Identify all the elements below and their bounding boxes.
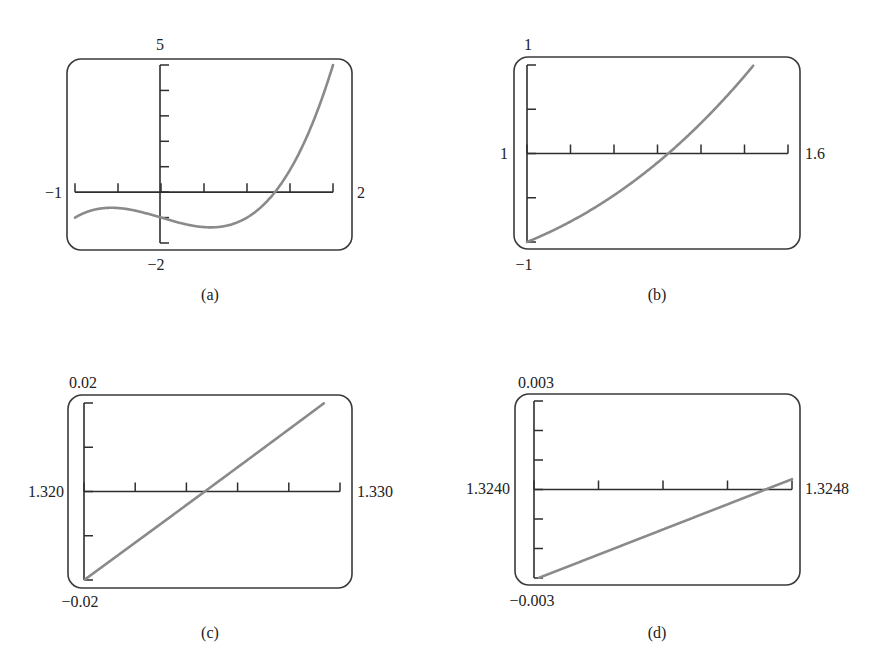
- xmax-label: 2: [357, 184, 365, 201]
- figure: 5 −2 −1 2 (a) 1 −1 1 1.6 (b) 0.02 −0.02 …: [0, 0, 887, 669]
- function-curve: [539, 479, 792, 578]
- function-curve: [75, 65, 333, 227]
- panel-caption: (d): [648, 624, 667, 642]
- ymin-label: −2: [147, 256, 164, 273]
- panel-b: 1 −1 1 1.6 (b): [500, 36, 825, 304]
- xmax-label: 1.3248: [805, 480, 849, 497]
- ticks: [75, 65, 333, 243]
- ymax-label: 5: [156, 36, 164, 53]
- panel-caption: (b): [648, 286, 667, 304]
- xmin-label: 1.320: [28, 483, 64, 500]
- ymax-label: 1: [524, 36, 532, 53]
- ymin-label: −0.02: [61, 593, 98, 610]
- xmin-label: −1: [45, 184, 62, 201]
- panel-a: 5 −2 −1 2 (a): [45, 36, 365, 304]
- ymax-label: 0.02: [69, 374, 97, 391]
- panel-caption: (c): [201, 624, 219, 642]
- xmax-label: 1.6: [805, 145, 825, 162]
- panel-d: 0.003 −0.003 1.3240 1.3248 (d): [466, 374, 849, 642]
- xmax-label: 1.330: [357, 483, 393, 500]
- xmin-label: 1: [500, 145, 508, 162]
- xmin-label: 1.3240: [466, 480, 510, 497]
- axes: [75, 65, 333, 243]
- panel-c: 0.02 −0.02 1.320 1.330 (c): [28, 374, 393, 642]
- calculator-window-frame: [67, 59, 352, 250]
- ymin-label: −1: [515, 256, 532, 273]
- ymin-label: −0.003: [509, 592, 554, 609]
- panel-caption: (a): [201, 286, 219, 304]
- ymax-label: 0.003: [518, 374, 554, 391]
